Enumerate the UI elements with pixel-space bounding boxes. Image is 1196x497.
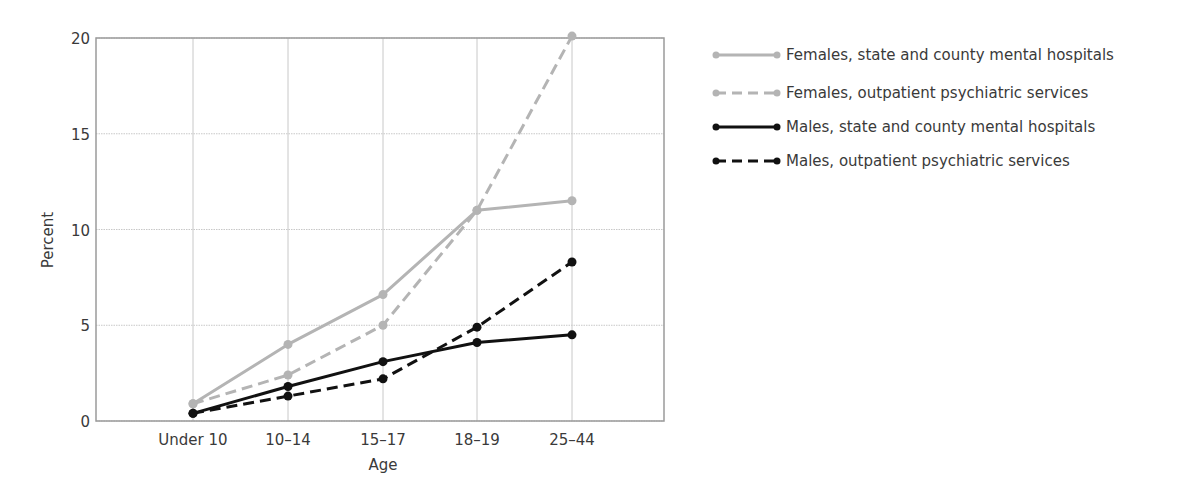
legend: Females, state and county mental hospita… <box>713 46 1115 170</box>
data-point <box>473 323 482 332</box>
y-tick-label: 0 <box>80 413 90 431</box>
y-axis-ticks: 05101520 <box>71 30 90 431</box>
data-point <box>568 196 577 205</box>
line-chart: 05101520 Under 1010–1415–1718–1925–44 Pe… <box>0 0 1196 497</box>
legend-label: Males, state and county mental hospitals <box>786 118 1095 136</box>
legend-item: Males, state and county mental hospitals <box>713 118 1096 136</box>
data-point <box>379 374 388 383</box>
data-point <box>379 321 388 330</box>
data-point <box>189 409 198 418</box>
data-point <box>568 330 577 339</box>
data-point <box>379 290 388 299</box>
x-tick-label: 18–19 <box>454 431 500 449</box>
legend-item: Males, outpatient psychiatric services <box>713 152 1070 170</box>
x-tick-label: 10–14 <box>265 431 311 449</box>
data-point <box>473 338 482 347</box>
legend-marker <box>713 158 720 165</box>
y-tick-label: 10 <box>71 222 90 240</box>
legend-marker <box>713 90 720 97</box>
x-tick-label: 25–44 <box>549 431 595 449</box>
data-point <box>284 382 293 391</box>
data-point <box>568 258 577 267</box>
legend-item: Females, state and county mental hospita… <box>713 46 1115 64</box>
legend-marker <box>774 158 781 165</box>
data-point <box>189 399 198 408</box>
x-axis-title: Age <box>368 456 397 474</box>
data-point <box>473 206 482 215</box>
x-tick-label: Under 10 <box>158 431 227 449</box>
data-point <box>284 392 293 401</box>
legend-label: Males, outpatient psychiatric services <box>786 152 1070 170</box>
data-point <box>284 371 293 380</box>
legend-label: Females, outpatient psychiatric services <box>786 84 1089 102</box>
data-point <box>284 340 293 349</box>
x-tick-label: 15–17 <box>360 431 406 449</box>
y-tick-label: 5 <box>80 317 90 335</box>
x-axis-ticks: Under 1010–1415–1718–1925–44 <box>158 431 594 449</box>
data-point <box>379 357 388 366</box>
legend-marker <box>713 124 720 131</box>
y-axis-title: Percent <box>39 212 57 269</box>
legend-marker <box>774 52 781 59</box>
legend-item: Females, outpatient psychiatric services <box>713 84 1089 102</box>
legend-marker <box>713 52 720 59</box>
data-point <box>568 32 577 41</box>
legend-label: Females, state and county mental hospita… <box>786 46 1114 64</box>
legend-marker <box>774 90 781 97</box>
y-tick-label: 15 <box>71 126 90 144</box>
legend-marker <box>774 124 781 131</box>
y-tick-label: 20 <box>71 30 90 48</box>
